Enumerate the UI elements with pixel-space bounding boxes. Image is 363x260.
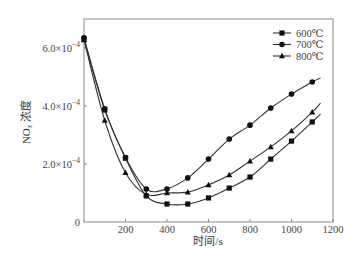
chart: 20040060080010001200 02.0×10−44.0×10−46.… — [0, 0, 363, 260]
circle-marker-icon — [279, 42, 285, 48]
square-marker-icon — [206, 195, 211, 200]
x-tick-label: 200 — [118, 224, 134, 235]
square-marker-icon — [185, 201, 190, 206]
x-tick-label: 1200 — [323, 224, 344, 235]
circle-marker-icon — [102, 106, 108, 112]
legend-label: 600℃ — [296, 28, 324, 39]
square-marker-icon — [227, 185, 232, 190]
y-axis-title: NOx 浓度 — [19, 100, 34, 144]
x-tick-label: 600 — [201, 224, 217, 235]
circle-marker-icon — [226, 136, 232, 142]
y-tick-label: 2.0×10−4 — [42, 156, 80, 170]
y-axis-ticks: 02.0×10−44.0×10−46.0×10−4 — [42, 40, 87, 228]
y-tick-label: 4.0×10−4 — [42, 98, 80, 112]
legend-item: 600℃ — [273, 28, 324, 39]
circle-marker-icon — [143, 186, 149, 192]
triangle-marker-icon — [226, 172, 232, 178]
square-marker-icon — [268, 156, 273, 161]
x-tick-label: 400 — [159, 224, 175, 235]
series-line — [84, 38, 321, 192]
square-marker-icon — [247, 174, 252, 179]
circle-marker-icon — [309, 79, 315, 85]
y-tick-label: 0 — [75, 217, 80, 228]
data-series — [81, 35, 321, 207]
square-marker-icon — [310, 119, 315, 124]
triangle-marker-icon — [102, 117, 108, 123]
series-square — [81, 37, 320, 207]
legend: 600℃700℃800℃ — [273, 28, 324, 62]
circle-marker-icon — [268, 105, 274, 111]
series-circle — [81, 35, 320, 192]
legend-item: 800℃ — [273, 51, 324, 62]
triangle-marker-icon — [247, 158, 253, 164]
square-marker-icon — [164, 201, 169, 206]
square-marker-icon — [279, 30, 284, 35]
x-tick-label: 800 — [242, 224, 258, 235]
triangle-marker-icon — [268, 144, 274, 150]
legend-label: 800℃ — [296, 51, 324, 62]
circle-marker-icon — [289, 91, 295, 97]
triangle-marker-icon — [123, 170, 129, 176]
series-line — [84, 40, 321, 196]
series-line — [84, 39, 321, 205]
square-marker-icon — [289, 138, 294, 143]
circle-marker-icon — [185, 175, 191, 181]
y-tick-label: 6.0×10−4 — [42, 40, 80, 54]
series-triangle — [81, 37, 321, 197]
circle-marker-icon — [123, 155, 129, 161]
legend-label: 700℃ — [296, 39, 324, 50]
x-tick-label: 1000 — [281, 224, 302, 235]
svg-text:NOx 浓度: NOx 浓度 — [19, 100, 34, 144]
circle-marker-icon — [247, 122, 253, 128]
legend-item: 700℃ — [273, 39, 324, 50]
x-axis-title: 时间/s — [193, 235, 222, 247]
circle-marker-icon — [206, 156, 212, 162]
x-axis-ticks: 20040060080010001200 — [118, 219, 344, 235]
